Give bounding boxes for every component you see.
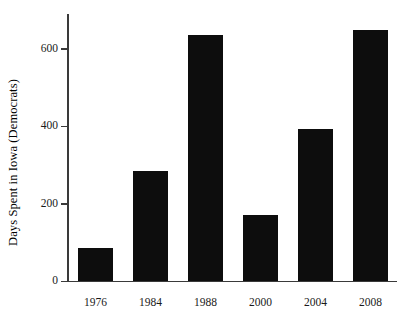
bar-2008[interactable] (353, 30, 388, 282)
x-axis-line (67, 281, 397, 283)
bar-1988[interactable] (188, 35, 223, 281)
x-tick-label-2000: 2000 (233, 296, 289, 308)
bar-2000[interactable] (243, 215, 278, 282)
x-tick-label-1976: 1976 (68, 296, 124, 308)
bar-1984[interactable] (133, 171, 168, 281)
y-tick-mark (61, 281, 68, 282)
x-tick-label-1988: 1988 (178, 296, 234, 308)
y-tick-label: 600 (18, 43, 58, 55)
x-tick-label-2004: 2004 (288, 296, 344, 308)
y-tick-label: 400 (18, 120, 58, 132)
y-tick-label: 200 (18, 198, 58, 210)
x-tick-label-2008: 2008 (343, 296, 399, 308)
x-tick-label-1984: 1984 (123, 296, 179, 308)
y-tick-mark (61, 203, 68, 204)
bar-1976[interactable] (78, 248, 113, 281)
y-tick-mark (61, 126, 68, 127)
bar-2004[interactable] (298, 129, 333, 281)
plot-area: 0200400600 197619841988200020042008 (0, 0, 411, 325)
y-tick-mark (61, 48, 68, 49)
y-axis-line (67, 14, 69, 282)
bar-chart: Days Spent in Iowa (Democrats) 020040060… (0, 0, 411, 325)
y-tick-label: 0 (18, 275, 58, 287)
